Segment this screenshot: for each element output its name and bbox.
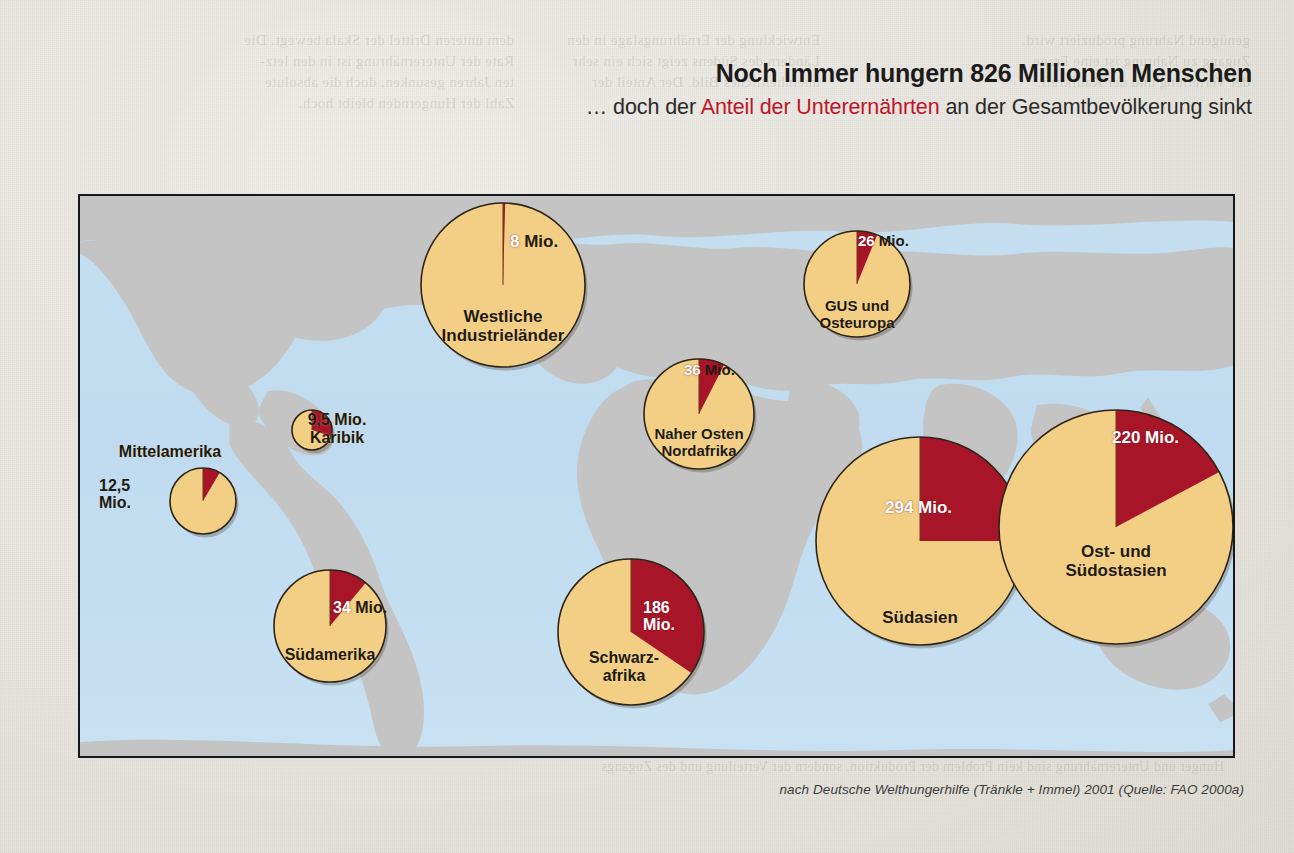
pie-ost-und-suedostasien[interactable] xyxy=(991,402,1235,652)
source-note: nach Deutsche Welthungerhilfe (Tränkle +… xyxy=(0,782,1244,797)
chart-subtitle: … doch der Anteil der Unterernährten an … xyxy=(0,92,1252,122)
bleed-through-text-bottom: Hunger und Unterernährung sind kein Prob… xyxy=(44,756,1224,777)
pie-naher-osten-nordafrika[interactable] xyxy=(636,351,762,477)
chart-subtitle-accent: Anteil der Unterernährten xyxy=(701,95,940,119)
chart-subtitle-prefix: … doch der xyxy=(586,95,701,119)
pie-suedamerika[interactable] xyxy=(266,562,394,690)
pie-mittelamerika[interactable] xyxy=(162,460,244,542)
pie-gus-und-osteuropa[interactable] xyxy=(796,223,918,345)
chart-subtitle-suffix: an der Gesamtbevölkerung sinkt xyxy=(940,95,1252,119)
infographic-page: dem unteren Drittel der Skala bewegt. Di… xyxy=(0,0,1294,853)
pie-schwarzafrika[interactable] xyxy=(550,551,712,713)
headline-block: Noch immer hungern 826 Millionen Mensche… xyxy=(0,58,1270,122)
chart-title: Noch immer hungern 826 Millionen Mensche… xyxy=(0,58,1252,88)
pie-karibik[interactable] xyxy=(284,402,340,458)
world-map-frame: Westliche Industrieländer8 Mio.GUS und O… xyxy=(78,194,1235,758)
pie-westliche-industrielaender[interactable] xyxy=(413,195,593,375)
